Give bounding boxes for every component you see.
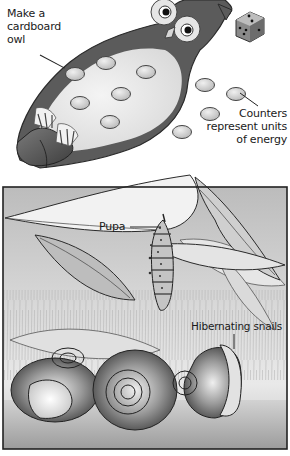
counters-label-line: Counters: [190, 107, 287, 120]
snails-label: Hibernating snails: [191, 320, 282, 333]
owl-label-line: Make a: [7, 7, 77, 20]
owl-leader-line: [40, 54, 65, 69]
die: [236, 12, 264, 42]
snail-shell-middle: [93, 350, 177, 430]
counters-leader-line: [240, 93, 258, 106]
owl-eye-right: [174, 16, 200, 42]
counters-label-line: of energy: [190, 133, 287, 146]
owl-label-line: owl: [7, 33, 77, 46]
overwintering-panel: Pupa Hibernating snails: [0, 165, 290, 456]
owl-game-panel: Make a cardboard owl Counters represent …: [0, 0, 290, 180]
counters-label-line: represent units: [190, 120, 287, 133]
owl-eye-left: [151, 0, 177, 25]
counters-label: Counters represent units of energy: [190, 107, 287, 146]
owl-label-line: cardboard: [7, 20, 77, 33]
overwintering-illustration: [0, 165, 290, 456]
pupa-label: Pupa: [99, 220, 125, 233]
owl-label: Make a cardboard owl: [7, 7, 77, 46]
